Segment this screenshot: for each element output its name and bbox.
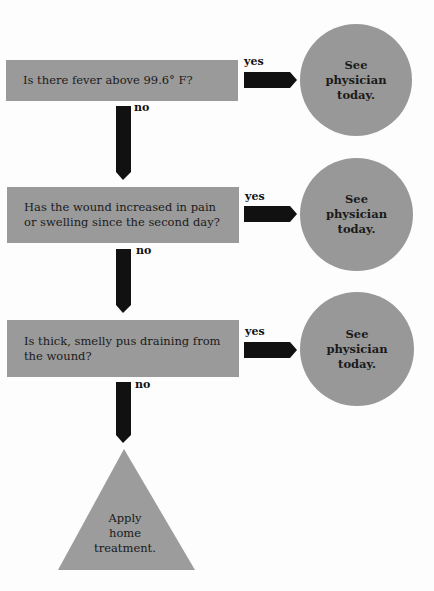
outcome-circle-1: See physician today. <box>300 24 412 136</box>
final-text: Apply home treatment. <box>85 511 165 556</box>
question-text-2: Has the wound increased in pain or swell… <box>24 200 229 230</box>
outcome-text-2: See physician today. <box>326 192 387 237</box>
yes-label-1: yes <box>244 55 264 68</box>
question-text-3: Is thick, smelly pus draining from the w… <box>24 334 229 364</box>
question-box-3: Is thick, smelly pus draining from the w… <box>7 320 239 377</box>
no-arrow-3 <box>116 382 131 443</box>
no-arrow-1 <box>116 106 131 180</box>
question-text-1: Is there fever above 99.6° F? <box>23 73 193 88</box>
yes-arrow-1 <box>244 72 297 88</box>
yes-arrow-3 <box>244 342 297 358</box>
flowchart: Is there fever above 99.6° F? Has the wo… <box>0 0 434 591</box>
no-label-3: no <box>135 378 150 391</box>
question-box-2: Has the wound increased in pain or swell… <box>7 187 239 243</box>
yes-label-2: yes <box>245 190 265 203</box>
outcome-circle-2: See physician today. <box>300 158 413 271</box>
no-arrow-2 <box>116 249 131 313</box>
yes-arrow-2 <box>244 206 297 222</box>
yes-label-3: yes <box>245 325 265 338</box>
no-label-1: no <box>134 101 149 114</box>
outcome-text-3: See physician today. <box>326 327 387 372</box>
outcome-circle-3: See physician today. <box>300 292 414 406</box>
no-label-2: no <box>136 244 151 257</box>
question-box-1: Is there fever above 99.6° F? <box>6 60 238 101</box>
outcome-text-1: See physician today. <box>325 58 386 103</box>
